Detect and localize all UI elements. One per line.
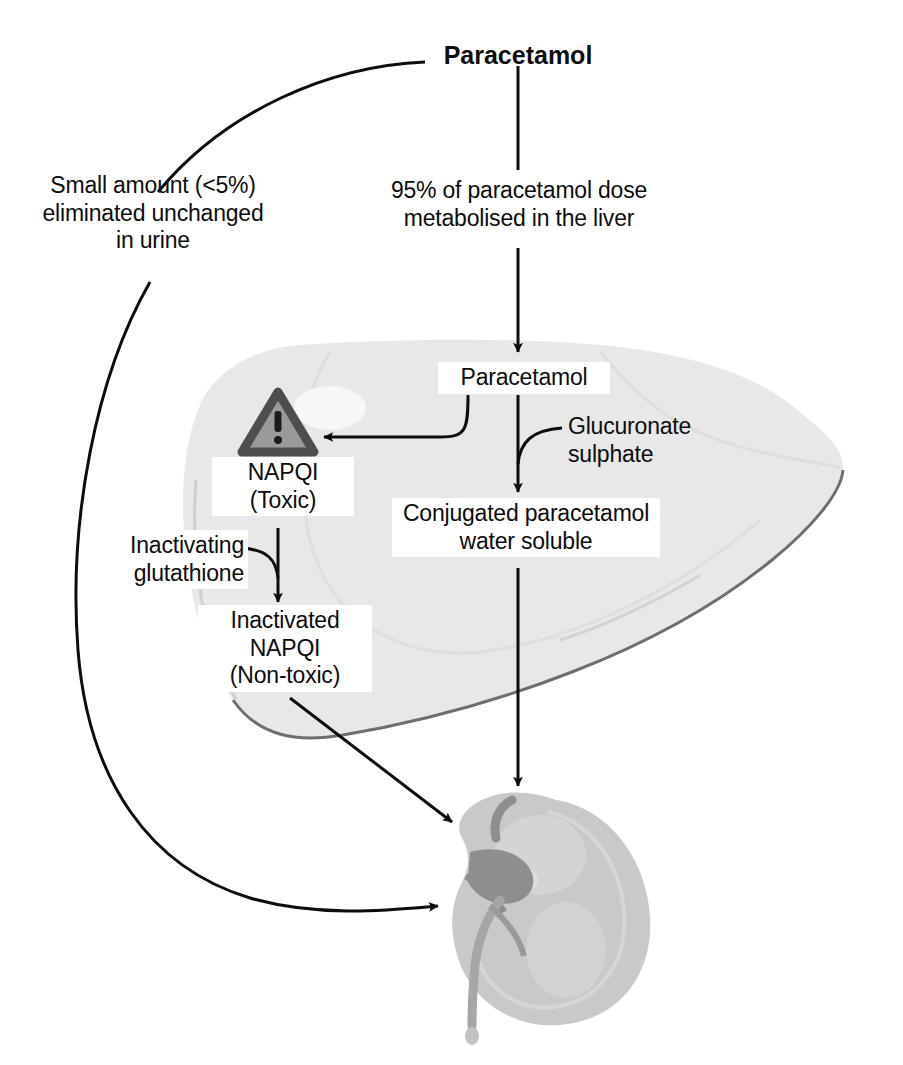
label-cofactors: Glucuronate sulphate xyxy=(568,413,744,468)
label-napqi-inactivated: Inactivated NAPQI (Non-toxic) xyxy=(198,605,372,692)
label-conjugate: Conjugated paracetamol water soluble xyxy=(392,498,660,557)
paracetamol-metabolism-diagram: Paracetamol Small amount (<5%) eliminate… xyxy=(0,0,903,1065)
label-hepatic-branch: 95% of paracetamol dose metabolised in t… xyxy=(378,177,660,232)
label-glutathione: Inactivating glutathione xyxy=(108,530,248,589)
label-renal-branch: Small amount (<5%) eliminated unchanged … xyxy=(20,172,286,255)
kidney-illustration xyxy=(452,792,650,1045)
label-liver-paracetamol: Paracetamol xyxy=(438,362,610,394)
page-title: Paracetamol xyxy=(400,40,636,70)
label-napqi-toxic: NAPQI (Toxic) xyxy=(212,457,354,516)
